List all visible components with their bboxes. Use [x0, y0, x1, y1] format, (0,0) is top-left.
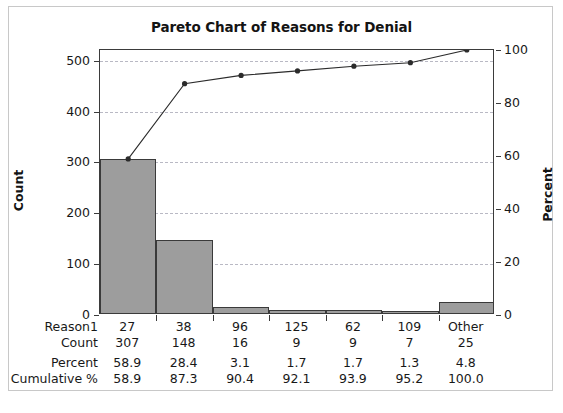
y-axis-right-tick-label: 100 — [504, 42, 550, 57]
y-axis-left-tick-label: 100 — [44, 256, 90, 271]
y-axis-left-tick-label: 200 — [44, 205, 90, 220]
y-axis-left-tick-label: 500 — [44, 53, 90, 68]
table-cell: 1.3 — [381, 355, 437, 370]
y-axis-right-tick — [496, 262, 501, 263]
table-cell: 16 — [212, 335, 268, 350]
y-axis-right-tick — [496, 50, 501, 51]
cumulative-line-marker — [182, 81, 187, 86]
y-axis-right-tick-label: 60 — [504, 148, 550, 163]
table-cell: 3.1 — [212, 355, 268, 370]
cumulative-line-marker — [239, 73, 244, 78]
table-cell: 38 — [155, 319, 211, 334]
table-cell: 96 — [212, 319, 268, 334]
y-axis-right-title: Percent — [540, 162, 555, 228]
y-axis-left-tick-label: 400 — [44, 104, 90, 119]
table-cell: 9 — [325, 335, 381, 350]
table-cell: 95.2 — [381, 371, 437, 386]
cumulative-line-path — [128, 50, 467, 159]
table-cell: 4.8 — [438, 355, 494, 370]
y-axis-right-tick — [496, 315, 501, 316]
table-cell: 27 — [99, 319, 155, 334]
table-cell: 25 — [438, 335, 494, 350]
cumulative-percent-line — [100, 50, 493, 313]
cumulative-line-marker — [295, 68, 300, 73]
pareto-chart-figure: Pareto Chart of Reasons for Denial Count… — [8, 6, 553, 391]
page-title: Pareto Chart of Reasons for Denial — [9, 19, 554, 35]
y-axis-left-tick — [94, 112, 99, 113]
plot-area: 0100200300400500020406080100 — [99, 49, 494, 314]
table-cell: 100.0 — [438, 371, 494, 386]
y-axis-left-tick — [94, 162, 99, 163]
cumulative-line-marker — [464, 50, 469, 53]
y-axis-right-tick-label: 20 — [504, 254, 550, 269]
table-cell: 7 — [381, 335, 437, 350]
y-axis-left-tick — [94, 315, 99, 316]
y-axis-left-tick-label: 300 — [44, 154, 90, 169]
cumulative-line-marker — [351, 64, 356, 69]
table-cell: 1.7 — [325, 355, 381, 370]
y-axis-right-tick — [496, 209, 501, 210]
y-axis-right-tick-label: 40 — [504, 201, 550, 216]
y-axis-right-tick-label: 80 — [504, 95, 550, 110]
table-cell: 62 — [325, 319, 381, 334]
table-cell: 28.4 — [155, 355, 211, 370]
table-cell: 307 — [99, 335, 155, 350]
table-cell: 93.9 — [325, 371, 381, 386]
cumulative-line-marker — [126, 156, 131, 161]
cumulative-line-marker — [408, 60, 413, 65]
table-cell: 1.7 — [268, 355, 324, 370]
table-cell: 58.9 — [99, 371, 155, 386]
table-row-label: Percent — [9, 355, 98, 370]
table-row: Count3071481699725 — [9, 335, 554, 351]
table-row: Percent58.928.43.11.71.71.34.8 — [9, 355, 554, 371]
y-axis-left-tick — [94, 213, 99, 214]
y-axis-left-tick — [94, 264, 99, 265]
table-row: Reason127389612562109Other — [9, 319, 554, 335]
y-axis-left-tick — [94, 61, 99, 62]
y-axis-right-tick — [496, 156, 501, 157]
table-cell: 109 — [381, 319, 437, 334]
table-cell: 148 — [155, 335, 211, 350]
table-row-label: Count — [9, 335, 98, 350]
y-axis-left-title: Count — [11, 161, 26, 221]
plot-inner — [100, 50, 493, 313]
table-row: Cumulative %58.987.390.492.193.995.2100.… — [9, 371, 554, 387]
table-cell: 90.4 — [212, 371, 268, 386]
table-cell: 125 — [268, 319, 324, 334]
table-cell: 92.1 — [268, 371, 324, 386]
table-cell: 87.3 — [155, 371, 211, 386]
table-cell: 58.9 — [99, 355, 155, 370]
table-row-label: Cumulative % — [9, 371, 98, 386]
table-cell: 9 — [268, 335, 324, 350]
y-axis-right-tick — [496, 103, 501, 104]
table-row-label: Reason1 — [9, 319, 98, 334]
table-cell: Other — [438, 319, 494, 334]
